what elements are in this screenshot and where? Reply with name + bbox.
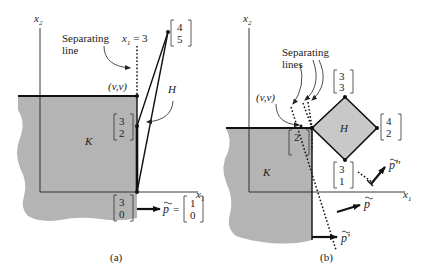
svg-text:2: 2 [119,127,125,139]
svg-text:0: 0 [119,208,125,220]
line-equation: x1 = 3 [121,32,148,47]
svg-text:2: 2 [386,127,392,139]
point-3-0 [135,190,139,194]
svg-text:0: 0 [190,209,196,221]
point-vv-label-b: (v,v) [256,91,275,104]
separating-line-label-1: Separating [62,32,110,44]
panel-b: K x2 x1 H Separating lines (v,v) [223,12,411,264]
separating-line-pointer [104,46,130,68]
separating-lines-pointer-1 [293,64,302,104]
vector-3-1: 3 1 [334,162,353,188]
vector-4-5: 4 5 [171,20,191,46]
svg-text:5: 5 [177,33,183,45]
svg-text:4: 4 [386,115,392,127]
panel-a: K x2 x1 Separating line x1 = 3 (v,v) H [17,12,204,264]
p-label-a: p [162,202,169,216]
svg-text:3: 3 [339,163,345,175]
set-k-label-b: K [262,166,271,178]
set-h-label-b: H [339,122,349,134]
point-3-1 [343,158,347,162]
set-k-region-b [223,128,312,244]
svg-text:1: 1 [339,175,345,187]
svg-text:3: 3 [119,196,125,208]
separating-line-label-2: line [62,44,79,56]
svg-text:3: 3 [339,81,345,93]
point-3-3 [343,95,347,99]
point-4-2 [375,126,379,130]
x2-axis-label-b: x2 [242,12,252,27]
caption-b: (b) [320,251,333,264]
separating-lines-label-2: lines [282,58,303,70]
separating-lines-label-1: Separating [282,46,330,58]
svg-text:3: 3 [119,115,125,127]
point-vv-a [135,94,139,98]
separating-line-vertical [303,103,312,128]
separating-lines-pointer-2 [305,60,316,100]
svg-text:2: 2 [294,131,300,143]
svg-text:4: 4 [177,21,183,33]
p-label-b: p [363,197,370,211]
separating-line-diagonal [358,172,372,182]
point-4-5 [166,30,170,34]
p-double-prime-arrow [371,167,385,184]
p-equals-a: = [173,203,179,215]
caption-a: (a) [110,251,123,264]
vv-pointer-tip [300,125,303,128]
svg-text:1: 1 [190,197,196,209]
vector-3-3: 3 3 [334,70,353,93]
x1-axis-label-b: x1 [402,188,411,203]
vector-4-2: 4 2 [381,114,401,140]
separating-hyperplane-figure: K x2 x1 Separating line x1 = 3 (v,v) H [0,0,421,277]
p-vector-arrow-b [337,205,360,212]
point-vv-label-a: (v,v) [108,80,127,93]
point-3-2 [135,124,139,128]
separating-lines-pointer-3 [312,60,323,100]
x2-axis-label: x2 [33,12,43,27]
set-k-label: K [84,135,93,147]
set-h-label-a: H [167,83,177,95]
